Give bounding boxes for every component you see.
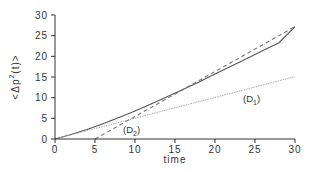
y-tick-label: 15	[35, 72, 48, 83]
y-tick-label: 30	[35, 10, 48, 21]
series-line	[55, 27, 295, 139]
y-tick-label: 5	[41, 113, 48, 124]
x-axis-title: time	[164, 154, 187, 165]
chart: 051015202530 051015202530 time <Δp2(t)> …	[0, 0, 311, 172]
x-ticks: 051015202530	[52, 139, 302, 155]
y-tick-label: 25	[35, 30, 48, 41]
y-tick-label: 20	[35, 51, 48, 62]
x-tick-label: 0	[52, 144, 59, 155]
series-line	[95, 27, 295, 139]
x-tick-label: 25	[248, 144, 261, 155]
y-axis-title-pre: <Δp	[10, 79, 21, 100]
annotations: (D1)(D2)	[123, 93, 260, 137]
x-tick-label: 20	[208, 144, 221, 155]
y-tick-label: 10	[35, 92, 48, 103]
plot-lines	[55, 27, 295, 139]
y-ticks: 051015202530	[35, 10, 55, 145]
x-tick-label: 10	[128, 144, 141, 155]
y-tick-label: 0	[41, 134, 48, 145]
x-tick-label: 5	[92, 144, 99, 155]
series-line	[55, 77, 295, 139]
annotation-label: (D2)	[123, 124, 140, 137]
y-axis-title-post: (t)>	[10, 54, 21, 73]
y-axis-title: <Δp2(t)>	[8, 54, 21, 99]
x-tick-label: 30	[288, 144, 301, 155]
svg-text:<Δp2(t)>: <Δp2(t)>	[8, 54, 21, 99]
annotation-label: (D1)	[243, 93, 260, 106]
